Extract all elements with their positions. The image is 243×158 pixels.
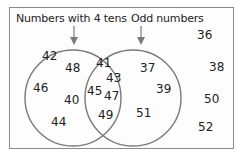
intersection-number: 47 bbox=[104, 89, 119, 103]
left-only-number: 42 bbox=[42, 49, 57, 63]
outside-number: 50 bbox=[204, 92, 219, 106]
outside-number: 36 bbox=[197, 28, 212, 42]
left-label-arrow bbox=[70, 26, 78, 45]
intersection-number: 41 bbox=[96, 56, 111, 70]
outside-number: 52 bbox=[198, 120, 213, 134]
left-only-number: 40 bbox=[64, 93, 79, 107]
left-set-label: Numbers with 4 tens bbox=[16, 12, 127, 25]
intersection-number: 45 bbox=[87, 84, 102, 98]
left-only-number: 48 bbox=[65, 61, 80, 75]
right-only-number: 39 bbox=[156, 82, 171, 96]
left-only-number: 44 bbox=[51, 115, 66, 129]
right-label-arrow bbox=[137, 26, 145, 45]
right-set-label: Odd numbers bbox=[131, 12, 204, 25]
intersection-number: 43 bbox=[106, 71, 121, 85]
outside-number: 38 bbox=[209, 60, 224, 74]
right-only-number: 37 bbox=[140, 61, 155, 75]
left-only-number: 46 bbox=[33, 81, 48, 95]
intersection-number: 49 bbox=[98, 108, 113, 122]
right-only-number: 51 bbox=[136, 106, 151, 120]
